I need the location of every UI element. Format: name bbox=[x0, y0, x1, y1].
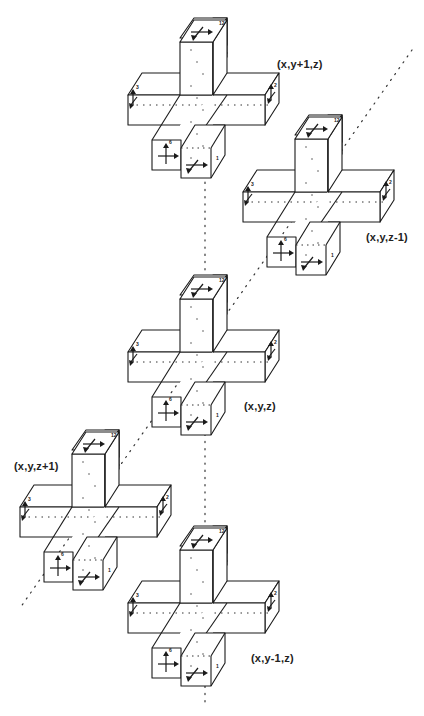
texture-dot bbox=[305, 182, 306, 183]
texture-dot bbox=[311, 158, 312, 159]
texture-dot bbox=[190, 414, 191, 415]
face-number-3: 3 bbox=[136, 592, 139, 598]
texture-dot bbox=[190, 378, 191, 379]
face-number-2: 2 bbox=[274, 82, 277, 88]
face-number-12: 12 bbox=[219, 20, 225, 26]
label-y-minus: (x,y-1,z) bbox=[251, 652, 294, 664]
texture-dot bbox=[196, 605, 197, 606]
texture-dot bbox=[317, 170, 318, 171]
face-number-12: 12 bbox=[111, 432, 117, 438]
texture-dot bbox=[190, 49, 191, 50]
texture-dot bbox=[196, 569, 197, 570]
face-number-6: 6 bbox=[169, 396, 172, 402]
texture-dot bbox=[196, 390, 197, 391]
texture-dot bbox=[202, 109, 203, 110]
face-number-2: 2 bbox=[274, 590, 277, 596]
label-z-minus: (x,y,z-1) bbox=[366, 231, 408, 243]
texture-dot bbox=[305, 146, 306, 147]
top-arm-front bbox=[72, 454, 105, 507]
texture-dot bbox=[82, 461, 83, 462]
texture-dot bbox=[190, 665, 191, 666]
face-number-6: 6 bbox=[61, 551, 64, 557]
texture-dot bbox=[88, 509, 89, 510]
crosses-group: 43212614321261432126143212614321261 bbox=[20, 18, 394, 686]
cross-y-plus: 4321261 bbox=[128, 18, 279, 178]
texture-dot bbox=[202, 402, 203, 403]
face-number-3: 3 bbox=[28, 496, 31, 502]
texture-dot bbox=[82, 569, 83, 570]
texture-dot bbox=[82, 497, 83, 498]
top-arm-front bbox=[180, 42, 213, 95]
texture-dot bbox=[311, 230, 312, 231]
texture-dot bbox=[317, 242, 318, 243]
texture-dot bbox=[196, 641, 197, 642]
top-arm-front bbox=[180, 550, 213, 603]
face-number-12: 12 bbox=[334, 117, 340, 123]
face-number-1: 1 bbox=[216, 412, 219, 418]
texture-dot bbox=[196, 133, 197, 134]
texture-dot bbox=[190, 557, 191, 558]
top-arm-front bbox=[295, 139, 328, 192]
texture-dot bbox=[94, 521, 95, 522]
top-arm-front bbox=[180, 299, 213, 352]
texture-dot bbox=[190, 342, 191, 343]
label-z-plus: (x,y,z+1) bbox=[14, 460, 59, 472]
face-number-1: 1 bbox=[216, 663, 219, 669]
cross-z-plus: 4321261 bbox=[20, 430, 171, 590]
texture-dot bbox=[202, 653, 203, 654]
face-number-2: 2 bbox=[274, 339, 277, 345]
texture-dot bbox=[190, 593, 191, 594]
texture-dot bbox=[202, 581, 203, 582]
texture-dot bbox=[190, 629, 191, 630]
texture-dot bbox=[190, 157, 191, 158]
texture-dot bbox=[202, 366, 203, 367]
texture-dot bbox=[202, 145, 203, 146]
face-number-3: 3 bbox=[136, 341, 139, 347]
texture-dot bbox=[196, 354, 197, 355]
face-number-1: 1 bbox=[331, 252, 334, 258]
texture-dot bbox=[196, 97, 197, 98]
label-center: (x,y,z) bbox=[244, 400, 276, 412]
texture-dot bbox=[88, 473, 89, 474]
texture-dot bbox=[88, 545, 89, 546]
texture-dot bbox=[196, 61, 197, 62]
face-number-3: 3 bbox=[251, 181, 254, 187]
texture-dot bbox=[190, 85, 191, 86]
face-number-2: 2 bbox=[389, 179, 392, 185]
face-number-12: 12 bbox=[219, 277, 225, 283]
face-number-2: 2 bbox=[166, 494, 169, 500]
texture-dot bbox=[305, 218, 306, 219]
texture-dot bbox=[202, 330, 203, 331]
texture-dot bbox=[202, 617, 203, 618]
face-number-1: 1 bbox=[108, 567, 111, 573]
cross-diagram: 43212614321261432126143212614321261 bbox=[0, 0, 424, 716]
label-y-plus: (x,y+1,z) bbox=[277, 58, 323, 70]
face-number-3: 3 bbox=[136, 84, 139, 90]
face-number-1: 1 bbox=[216, 155, 219, 161]
texture-dot bbox=[196, 318, 197, 319]
face-number-6: 6 bbox=[169, 139, 172, 145]
texture-dot bbox=[82, 533, 83, 534]
texture-dot bbox=[311, 194, 312, 195]
texture-dot bbox=[317, 206, 318, 207]
face-number-6: 6 bbox=[169, 647, 172, 653]
face-number-6: 6 bbox=[284, 236, 287, 242]
texture-dot bbox=[190, 306, 191, 307]
texture-dot bbox=[190, 121, 191, 122]
cross-z-minus: 4321261 bbox=[243, 115, 394, 275]
texture-dot bbox=[305, 254, 306, 255]
texture-dot bbox=[94, 485, 95, 486]
texture-dot bbox=[202, 73, 203, 74]
face-number-12: 12 bbox=[219, 528, 225, 534]
texture-dot bbox=[94, 557, 95, 558]
